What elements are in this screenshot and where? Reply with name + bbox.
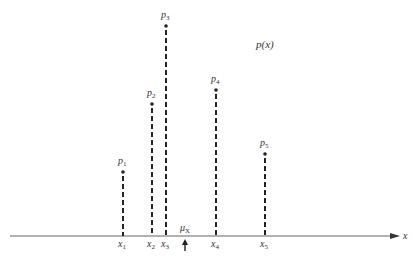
probability-label: p4 <box>210 73 220 86</box>
x-value-label: x2 <box>146 238 155 251</box>
probability-label: p1 <box>117 155 127 168</box>
x-value-label: x5 <box>259 238 268 251</box>
stem-x4: p4x4 <box>210 73 220 251</box>
stems: p1x1p2x2p3x3p4x4p5x5 <box>117 9 269 251</box>
stem-x5: p5x5 <box>259 137 269 251</box>
probability-label: p3 <box>160 9 170 22</box>
x-axis-label: x <box>402 230 408 241</box>
stem-dot <box>214 88 218 92</box>
stem-x3: p3x3 <box>160 9 170 251</box>
probability-label: p5 <box>259 137 269 150</box>
x-value-label: x1 <box>117 238 126 251</box>
mean-arrow-up-icon <box>182 239 188 245</box>
function-label: p(x) <box>255 38 274 51</box>
probability-label: p2 <box>146 87 156 100</box>
stem-dot <box>164 24 168 28</box>
stem-x1: p1x1 <box>117 155 127 251</box>
stem-x2: p2x2 <box>146 87 156 251</box>
stem-dot <box>263 152 267 156</box>
x-value-label: x4 <box>210 238 219 251</box>
pmf-diagram: p(x) x p1x1p2x2p3x3p4x4p5x5 μX <box>0 0 418 261</box>
x-axis-arrow-icon <box>390 233 400 239</box>
stem-dot <box>121 170 125 174</box>
x-axis: x <box>10 230 408 241</box>
x-value-label: x3 <box>160 238 169 251</box>
stem-dot <box>150 102 154 106</box>
mean-label: μX <box>179 222 190 235</box>
